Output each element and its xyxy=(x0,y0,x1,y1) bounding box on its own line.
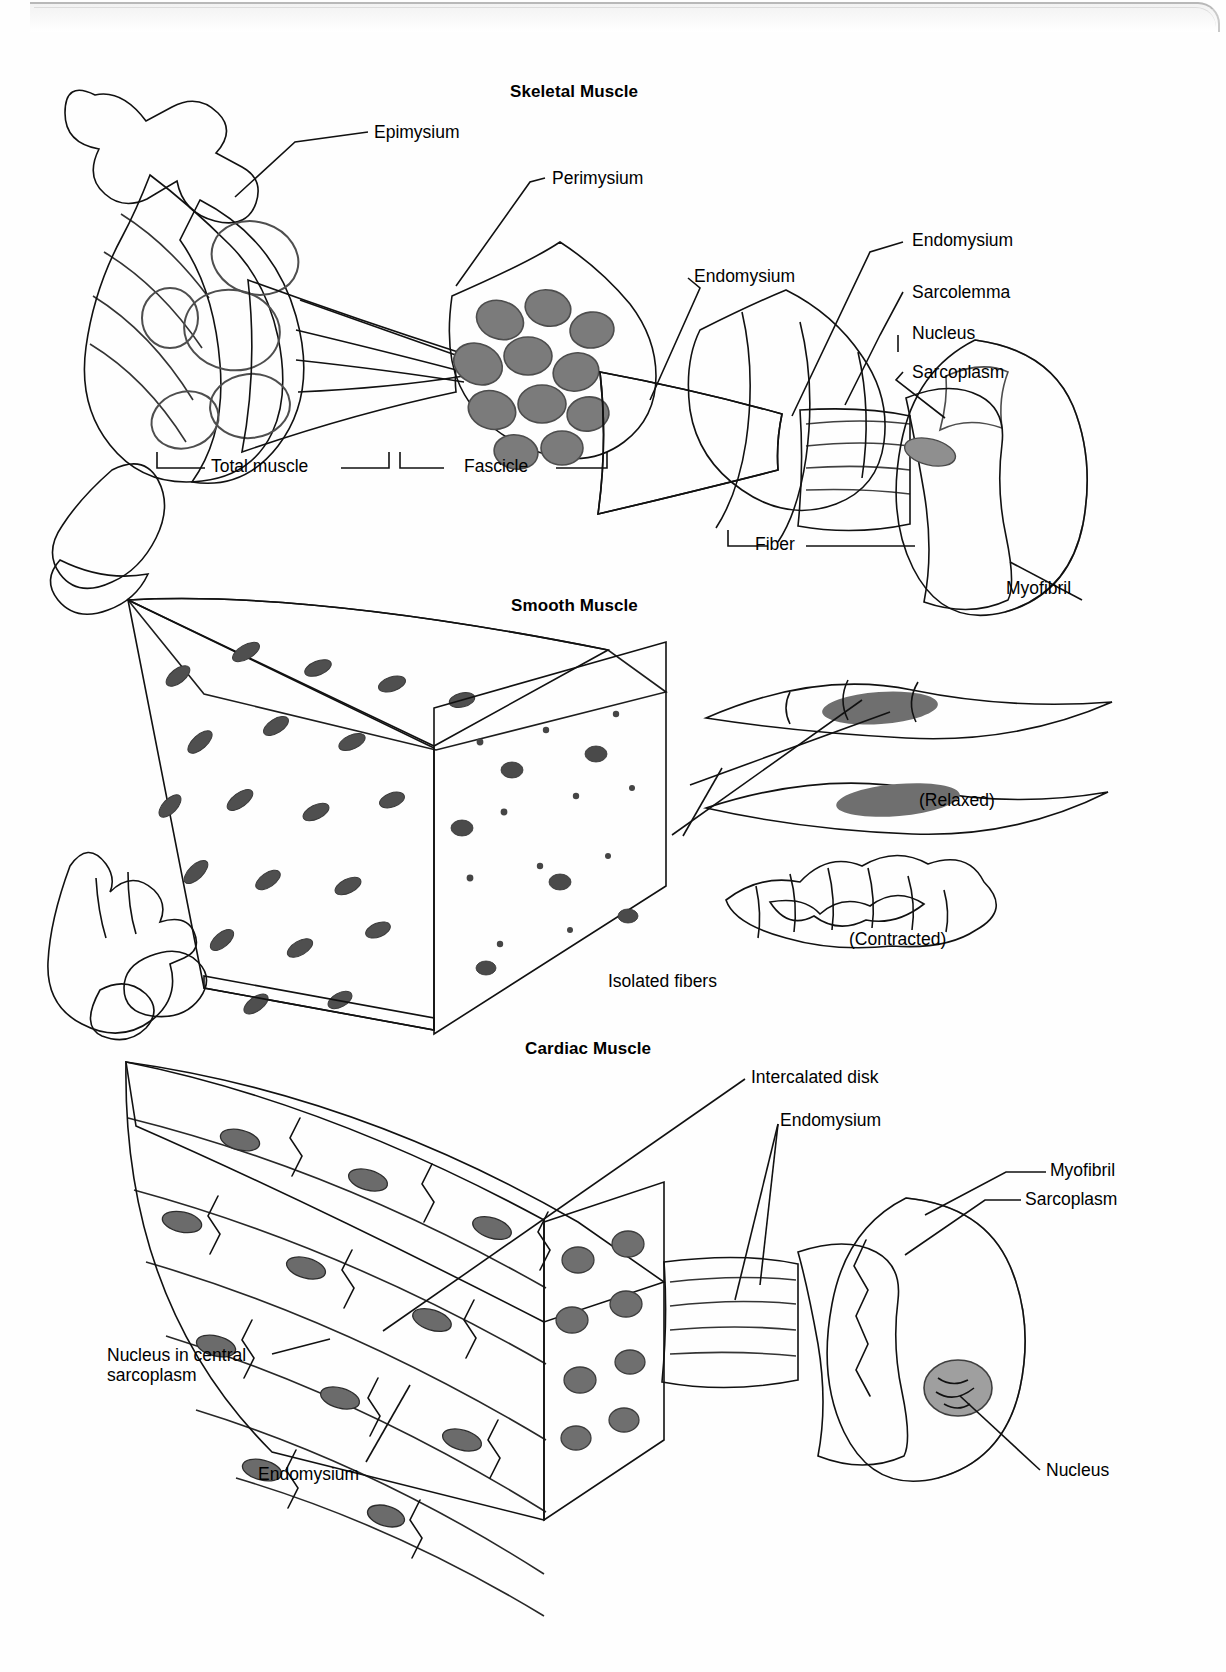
label-endomysium-cardiac-top: Endomysium xyxy=(780,1110,881,1130)
section-title-cardiac: Cardiac Muscle xyxy=(525,1039,651,1059)
label-intercalated-disk: Intercalated disk xyxy=(751,1067,878,1087)
bracket-total-muscle-right xyxy=(341,452,389,468)
label-sarcolemma: Sarcolemma xyxy=(912,282,1010,302)
illustration-artwork xyxy=(0,0,1226,1672)
label-endomysium-cardiac-bottom: Endomysium xyxy=(258,1464,359,1484)
leader-nucleus-bottom xyxy=(960,1396,1040,1470)
leader-smooth-fiber-2 xyxy=(672,700,862,835)
bracket-label-fiber: Fiber xyxy=(755,534,795,554)
section-title-skeletal: Skeletal Muscle xyxy=(510,82,638,102)
cardiac-muscle-art xyxy=(48,852,1025,1616)
label-myofibril-cardiac: Myofibril xyxy=(1050,1160,1115,1180)
bracket-label-fascicle: Fascicle xyxy=(464,456,528,476)
label-perimysium: Perimysium xyxy=(552,168,643,188)
label-sarcoplasm-cardiac: Sarcoplasm xyxy=(1025,1189,1117,1209)
leader-endomysium-left xyxy=(650,278,700,400)
leader-lines xyxy=(0,0,1226,1672)
leader-perimysium xyxy=(456,178,545,286)
leader-sarcoplasm xyxy=(905,1200,1021,1255)
label-endomysium-skeletal-left: Endomysium xyxy=(694,266,795,286)
smooth-muscle-art xyxy=(50,464,1112,1034)
figure-page: Skeletal Muscle Epimysium Perimysium End… xyxy=(0,0,1226,1672)
label-contracted: (Contracted) xyxy=(849,929,946,949)
label-nucleus-central-sarcoplasm: Nucleus in central sarcoplasm xyxy=(107,1345,297,1385)
label-relaxed: (Relaxed) xyxy=(919,790,995,810)
label-endomysium-skeletal-right: Endomysium xyxy=(912,230,1013,250)
page-edge-curl xyxy=(0,0,1226,40)
label-sarcoplasm-skeletal: Sarcoplasm xyxy=(912,362,1004,382)
leader-sarcolemma xyxy=(845,292,903,405)
leader-endomysium-top-a xyxy=(760,1124,778,1285)
bracket-label-total-muscle: Total muscle xyxy=(211,456,308,476)
leader-endomysium-bottom xyxy=(366,1385,410,1462)
leader-endomysium-top-b xyxy=(735,1124,778,1300)
leader-smooth-fiber-3 xyxy=(683,768,722,836)
label-nucleus-cardiac: Nucleus xyxy=(1046,1460,1109,1480)
leader-epimysium xyxy=(235,132,368,197)
bracket-fascicle-left xyxy=(400,452,444,468)
label-epimysium: Epimysium xyxy=(374,122,460,142)
section-title-smooth: Smooth Muscle xyxy=(511,596,638,616)
label-myofibril-skeletal: Myofibril xyxy=(1006,578,1071,598)
label-nucleus-skeletal: Nucleus xyxy=(912,323,975,343)
leader-intercalated-disk xyxy=(383,1079,745,1331)
bracket-total-muscle-left xyxy=(157,452,205,468)
leader-endomysium-right xyxy=(792,242,903,416)
leader-smooth-fiber-1 xyxy=(690,712,890,785)
bracket-fascicle-right xyxy=(556,452,607,468)
label-isolated-fibers: Isolated fibers xyxy=(608,971,717,991)
